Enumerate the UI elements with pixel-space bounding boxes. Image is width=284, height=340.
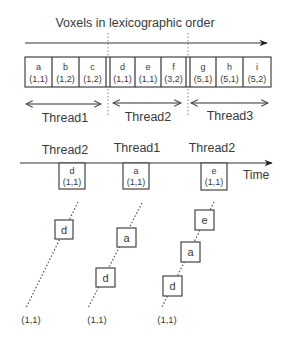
thread-range-1: Thread1 — [26, 104, 101, 125]
svg-text:a: a — [133, 166, 138, 176]
svg-text:Thread3: Thread3 — [207, 109, 254, 123]
svg-text:(1,1): (1,1) — [205, 177, 224, 187]
svg-text:d: d — [102, 272, 108, 284]
svg-text:a: a — [123, 232, 130, 244]
svg-text:d: d — [69, 166, 74, 176]
svg-text:(1,2): (1,2) — [83, 74, 102, 84]
event-thread-label-3: Thread2 — [189, 141, 236, 155]
svg-text:a: a — [187, 246, 194, 258]
stack-2: a d (1,1) — [87, 203, 142, 325]
svg-text:(1,1): (1,1) — [29, 74, 48, 84]
svg-text:Thread1: Thread1 — [42, 111, 89, 125]
svg-text:e: e — [201, 214, 207, 226]
stack-base-label: (1,1) — [21, 314, 41, 325]
stack-dotted-line — [88, 203, 142, 308]
svg-text:(5,1): (5,1) — [220, 74, 239, 84]
stack-1: d (1,1) — [21, 202, 78, 325]
svg-text:(3,2): (3,2) — [164, 74, 183, 84]
svg-text:Thread2: Thread2 — [125, 110, 172, 124]
stack-dotted-line — [26, 202, 78, 308]
timeline-event-d: d (1,1) — [59, 163, 85, 189]
svg-text:d: d — [169, 280, 175, 292]
stack-3: e a d (1,1) — [157, 202, 214, 325]
event-thread-label-1: Thread2 — [42, 143, 89, 157]
svg-text:d: d — [120, 62, 125, 72]
thread-range-3: Thread3 — [191, 103, 268, 123]
svg-text:h: h — [227, 62, 232, 72]
svg-text:(1,1): (1,1) — [63, 177, 82, 187]
time-axis-label: Time — [243, 168, 270, 182]
svg-text:c: c — [90, 62, 95, 72]
svg-text:g: g — [200, 62, 205, 72]
thread-range-2: Thread2 — [113, 103, 181, 124]
stack-base-label: (1,1) — [157, 314, 177, 325]
diagram-title: Voxels in lexicographic order — [55, 16, 214, 30]
voxel-table: a (1,1) b (1,2) c (1,2) d (1,1) e (1,1) … — [25, 57, 271, 87]
timeline: Thread2 Thread1 Thread2 Time d (1,1) a (… — [20, 141, 272, 190]
svg-text:b: b — [63, 62, 68, 72]
svg-text:e: e — [211, 166, 216, 176]
svg-text:(5,1): (5,1) — [194, 74, 213, 84]
svg-text:(1,1): (1,1) — [127, 177, 146, 187]
svg-text:d: d — [61, 224, 67, 236]
timeline-event-e: e (1,1) — [201, 163, 227, 190]
svg-text:(1,1): (1,1) — [139, 74, 158, 84]
diagram-svg: Voxels in lexicographic order a (1,1) b … — [0, 0, 284, 340]
svg-text:e: e — [145, 62, 150, 72]
svg-text:(1,1): (1,1) — [113, 74, 132, 84]
stack-base-label: (1,1) — [87, 314, 107, 325]
svg-text:(1,2): (1,2) — [56, 74, 75, 84]
timeline-event-a: a (1,1) — [123, 163, 149, 189]
event-thread-label-2: Thread1 — [114, 141, 161, 155]
svg-text:(5,2): (5,2) — [248, 74, 267, 84]
svg-text:i: i — [256, 62, 258, 72]
diagram-canvas: Voxels in lexicographic order a (1,1) b … — [0, 0, 284, 340]
svg-text:a: a — [36, 62, 41, 72]
